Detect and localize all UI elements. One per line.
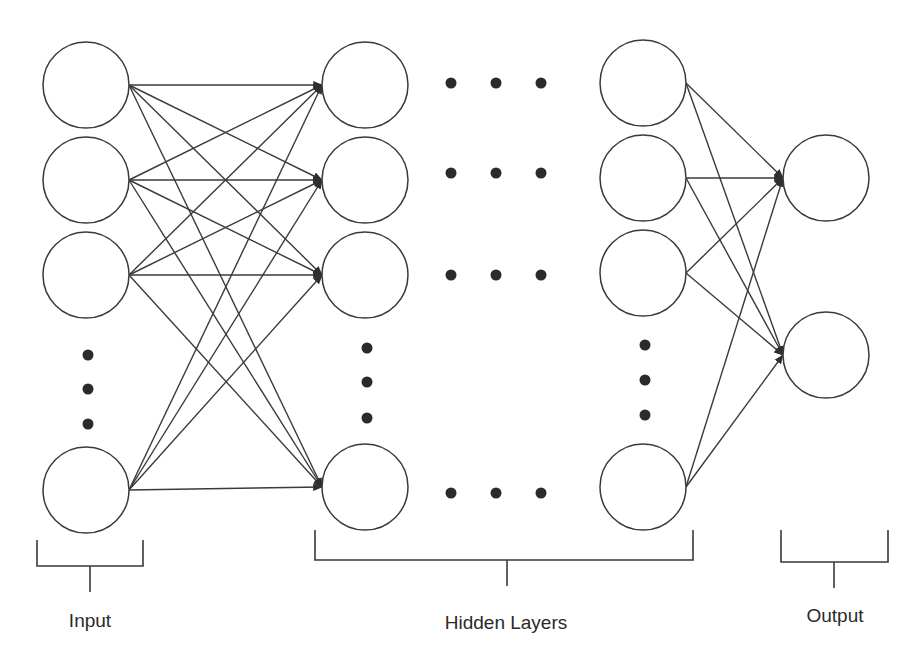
vertical-ellipsis-dot [640,340,651,351]
input-bracket [37,540,143,566]
input-neuron-node [43,137,129,223]
connection-arrow [686,178,783,487]
connection-edges [129,83,783,490]
hidden-1-neuron-node [322,42,408,128]
hidden-last-neuron-node [600,444,686,530]
vertical-ellipsis-dot [362,343,373,354]
horizontal-ellipsis-dot [446,488,457,499]
vertical-ellipsis-dot [362,377,373,388]
input-neuron-node [43,42,129,128]
hidden-layers-label: Hidden Layers [445,613,568,632]
neural-network-diagram: Input Hidden Layers Output [0,0,922,667]
hidden-1-neuron-node [322,137,408,223]
input-layer-label: Input [69,611,111,630]
horizontal-ellipsis-dot [536,78,547,89]
horizontal-ellipsis-dot [446,168,457,179]
horizontal-ellipsis-dot [446,78,457,89]
connection-arrow [686,83,783,178]
output-layer-label: Output [806,606,863,625]
hidden-bracket [315,530,693,560]
layer-brackets [37,530,888,592]
output-neuron-node [783,312,869,398]
vertical-ellipsis-dot [640,375,651,386]
vertical-ellipsis-dot [640,410,651,421]
output-neuron-node [783,135,869,221]
connection-arrow [686,178,783,355]
horizontal-ellipsis-dot [536,488,547,499]
connection-arrow [686,355,783,487]
input-neuron-node [43,232,129,318]
hidden-1-neuron-node [322,444,408,530]
output-bracket [781,530,888,562]
vertical-ellipsis-dot [83,419,94,430]
hidden-last-neuron-node [600,40,686,126]
horizontal-ellipsis-dot [536,270,547,281]
vertical-ellipsis-dot [83,384,94,395]
hidden-last-neuron-node [600,135,686,221]
horizontal-ellipsis-dot [491,78,502,89]
horizontal-ellipsis-dot [491,270,502,281]
connection-arrow [129,487,322,490]
horizontal-ellipsis-dot [446,270,457,281]
vertical-ellipsis-dot [362,413,373,424]
horizontal-ellipsis-dot [536,168,547,179]
hidden-last-neuron-node [600,230,686,316]
input-neuron-node [43,447,129,533]
hidden-1-neuron-node [322,232,408,318]
horizontal-ellipsis-dot [491,488,502,499]
vertical-ellipsis-dot [83,350,94,361]
network-graph [0,0,922,667]
horizontal-ellipsis-dot [491,168,502,179]
